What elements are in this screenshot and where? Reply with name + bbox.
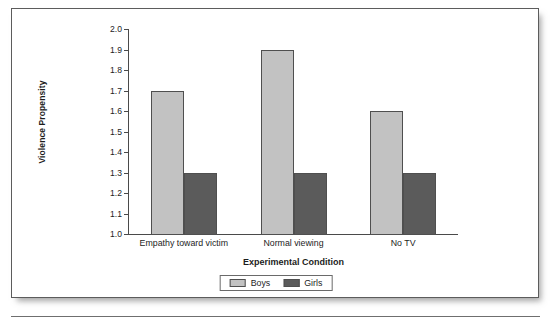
page-bottom-rule [11, 316, 540, 317]
legend-swatch-icon-boys [230, 279, 246, 287]
bar-girls-1 [294, 173, 327, 236]
figure-page: Violence Propensity 1.01.11.21.31.41.51.… [0, 0, 551, 328]
x-axis-tick-label-group: Empathy toward victimNormal viewingNo TV [129, 238, 458, 254]
x-axis-tick-label: No TV [391, 238, 416, 248]
y-axis-tick-label: 1.7 [96, 86, 122, 96]
x-axis-tick-label: Normal viewing [263, 238, 323, 248]
chart-figure-panel: Violence Propensity 1.01.11.21.31.41.51.… [11, 8, 539, 298]
y-axis-tick-label: 1.8 [96, 65, 122, 75]
bar-boys-0 [151, 91, 184, 236]
y-axis-tick-label: 1.0 [96, 229, 122, 239]
bar-girls-2 [403, 173, 436, 236]
y-axis-tick-label-group: 1.01.11.21.31.41.51.61.71.81.92.0 [96, 29, 122, 234]
legend-swatch-icon-girls [283, 279, 299, 287]
y-axis-tick-label: 1.2 [96, 188, 122, 198]
bar-girls-0 [184, 173, 217, 236]
y-axis-tick-label: 1.5 [96, 127, 122, 137]
y-axis-tick-label: 1.1 [96, 209, 122, 219]
legend-label: Girls [304, 278, 322, 288]
x-axis-tick-label: Empathy toward victim [140, 238, 228, 248]
y-axis-tick-label: 1.4 [96, 147, 122, 157]
bar-boys-1 [261, 50, 294, 236]
y-axis-tick-label: 2.0 [96, 24, 122, 34]
y-axis-tick-label: 1.9 [96, 45, 122, 55]
y-axis-tick-label: 1.6 [96, 106, 122, 116]
y-axis-tick-label: 1.3 [96, 168, 122, 178]
legend-entry-girls[interactable]: Girls [283, 278, 322, 288]
legend-entry-boys[interactable]: Boys [230, 278, 271, 288]
x-axis-title: Experimental Condition [129, 257, 458, 267]
chart-legend: BoysGirls [220, 275, 333, 291]
legend-label: Boys [251, 278, 271, 288]
y-axis-title: Violence Propensity [37, 47, 47, 197]
bar-boys-2 [370, 111, 403, 235]
bar-group-layer [129, 29, 458, 235]
plot-area: Violence Propensity 1.01.11.21.31.41.51.… [12, 9, 540, 299]
